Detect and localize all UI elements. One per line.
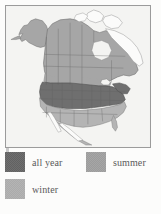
legend-item-summer[interactable]: summer	[86, 152, 146, 172]
map-canvas	[7, 7, 149, 146]
north-america-map	[7, 7, 149, 146]
legend-label-summer: summer	[113, 157, 146, 168]
legend-swatch-winter	[5, 179, 25, 199]
map-frame	[5, 5, 151, 148]
range-map-figure: all year summer winter	[0, 0, 161, 214]
legend-label-all-year: all year	[32, 157, 63, 168]
legend-item-all-year[interactable]: all year	[5, 152, 63, 172]
legend-swatch-all-year	[5, 152, 25, 172]
legend-row-2: winter	[5, 179, 156, 201]
all-year-range-region	[40, 82, 131, 109]
legend-swatch-summer	[86, 152, 106, 172]
legend-row-1: all year summer	[5, 152, 156, 174]
legend: all year summer winter	[5, 152, 156, 210]
hudson-bay	[92, 41, 112, 61]
legend-item-winter[interactable]: winter	[5, 179, 58, 199]
legend-label-winter: winter	[32, 184, 58, 195]
